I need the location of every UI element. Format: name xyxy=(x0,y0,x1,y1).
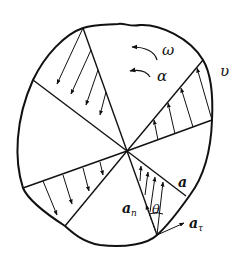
velocity-label: υ xyxy=(220,62,229,80)
alpha-rotation-arrow xyxy=(130,70,150,77)
acceleration-label: a xyxy=(178,174,187,190)
angle-label: θ xyxy=(152,202,160,217)
normal-acceleration-label: an xyxy=(122,200,137,218)
tangential-acceleration-label: aτ xyxy=(189,215,204,233)
omega-rotation-arrow xyxy=(132,47,157,60)
rotating-body-diagram: ω α υ a an θ aτ xyxy=(0,0,244,263)
body-outline xyxy=(17,24,212,246)
omega-label: ω xyxy=(162,41,174,59)
alpha-label: α xyxy=(157,67,167,85)
